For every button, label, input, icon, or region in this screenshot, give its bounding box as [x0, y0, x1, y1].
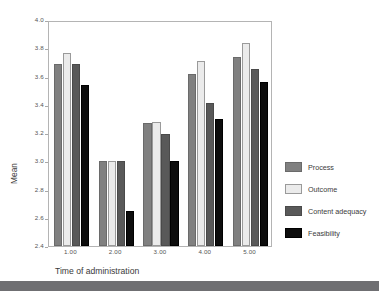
bar [99, 161, 107, 246]
bar-chart-figure: 4.03.83.63.43.23.02.82.62.4 Mean 1.002.0… [0, 0, 379, 291]
plot-frame [48, 21, 272, 247]
bar [188, 74, 196, 246]
y-axis-title: Mean [9, 163, 19, 184]
bar [242, 43, 250, 246]
x-axis-tick-label: 4.00 [198, 248, 211, 255]
bar [81, 85, 89, 246]
legend-label: Feasibility [308, 229, 340, 238]
bar [206, 103, 214, 246]
bottom-band [0, 281, 379, 291]
plot-area [49, 22, 271, 246]
bar-group [99, 22, 134, 246]
bar [215, 119, 223, 246]
bar-group [54, 22, 89, 246]
y-axis: 4.03.83.63.43.23.02.82.62.4 [0, 21, 48, 247]
y-axis-tick-label: 3.4 [35, 101, 44, 108]
bar [54, 64, 62, 246]
bar [63, 53, 71, 247]
x-axis: 1.002.003.004.005.00 [48, 248, 272, 264]
bar [161, 134, 169, 246]
bar [197, 61, 205, 246]
bar [233, 57, 241, 246]
legend-swatch [285, 162, 302, 172]
y-axis-tick-label: 3.0 [35, 157, 44, 164]
y-axis-tick-label: 3.2 [35, 129, 44, 136]
bar [152, 122, 160, 246]
bar [117, 161, 125, 246]
bar-group [233, 22, 268, 246]
legend-label: Process [308, 163, 334, 172]
bar [72, 64, 80, 246]
bar-group [143, 22, 178, 246]
x-axis-tick-label: 1.00 [64, 248, 77, 255]
legend-swatch [285, 206, 302, 216]
x-axis-tick-label: 2.00 [109, 248, 122, 255]
bar [251, 69, 259, 246]
x-axis-title: Time of administration [55, 266, 139, 276]
x-axis-tick-label: 5.00 [243, 248, 256, 255]
legend-label: Outcome [308, 185, 337, 194]
x-axis-tick-label: 3.00 [154, 248, 167, 255]
bar [170, 161, 178, 246]
bar [126, 211, 134, 246]
y-axis-tick-label: 4.0 [35, 16, 44, 23]
bar-group [188, 22, 223, 246]
bar [108, 161, 116, 246]
bar [260, 82, 268, 246]
legend-swatch [285, 184, 302, 194]
y-axis-tick-label: 3.6 [35, 73, 44, 80]
y-axis-tick-label: 2.8 [35, 186, 44, 193]
legend-swatch [285, 228, 302, 238]
y-axis-tick-label: 3.8 [35, 44, 44, 51]
legend-label: Content adequacy [308, 207, 366, 216]
y-axis-tick-label: 2.6 [35, 214, 44, 221]
bar [143, 123, 151, 246]
y-axis-tick-label: 2.4 [35, 242, 44, 249]
